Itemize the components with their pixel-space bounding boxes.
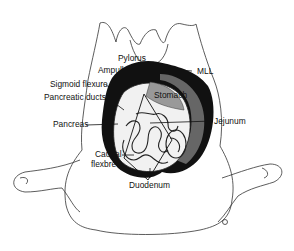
label-pancreatic-ducts: Pancreatic ducts [44,93,106,101]
label-flexure: flexbre [91,160,116,168]
label-sigmoid-flexure: Sigmoid flexure [50,80,108,88]
label-mll: MLL [197,67,213,75]
label-caudal: Caudal [95,150,122,158]
label-pylorus: Pylorus [118,54,146,62]
label-stomach: Stomach [154,91,187,99]
organ-mass [102,61,214,180]
label-pancreas: Pancreas [53,120,88,128]
label-duodenum: Duodenum [129,181,170,189]
label-ampulla: Ampulla [98,66,128,74]
label-jejunum: Jejunum [214,117,246,125]
anatomy-diagram [0,0,294,251]
